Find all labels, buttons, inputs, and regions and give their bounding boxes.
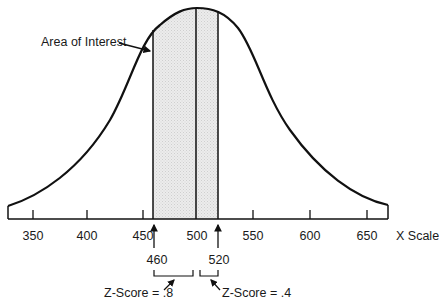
tick-label-350: 350	[23, 229, 44, 243]
marker-value-460: 460	[147, 253, 168, 267]
tick-label-500: 500	[187, 229, 208, 243]
tick-label-450: 450	[133, 229, 154, 243]
zscore-04-pointer	[211, 280, 220, 290]
tick-label-650: 650	[357, 229, 378, 243]
shaded-area-of-interest	[153, 0, 218, 219]
tick-label-600: 600	[300, 229, 321, 243]
tick-label-400: 400	[77, 229, 98, 243]
zscore-label-520: Z-Score = .4	[222, 286, 291, 300]
tick-label-550: 550	[243, 229, 264, 243]
x-axis-label: X Scale	[396, 229, 439, 243]
area-of-interest-label: Area of Interest	[41, 35, 127, 49]
normal-curve-diagram: 350 400 450 500 550 600 650 X Scale Area…	[0, 0, 439, 305]
marker-value-520: 520	[209, 253, 230, 267]
zscore-label-460: Z-Score = .8	[104, 286, 173, 300]
bracket-500-520	[200, 270, 218, 276]
bracket-460-500	[154, 270, 193, 276]
